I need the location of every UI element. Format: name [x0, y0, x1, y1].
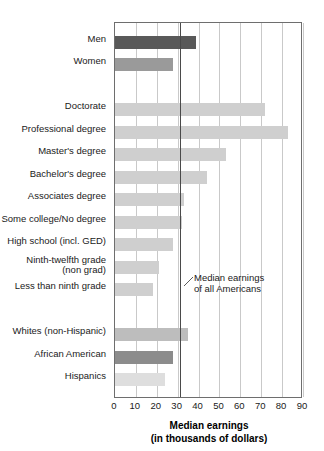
bar — [115, 238, 173, 251]
bar — [115, 373, 165, 386]
plot-area — [114, 22, 302, 398]
category-label: Hispanics — [0, 371, 106, 382]
bar-row — [115, 373, 165, 386]
category-label: Doctorate — [0, 101, 106, 112]
bar-row — [115, 216, 182, 229]
median-earnings-bar-chart: MenWomenDoctorateProfessional degreeMast… — [0, 0, 324, 451]
axis-title-line1: Median earnings — [114, 419, 304, 432]
x-tick-label-10: 10 — [130, 400, 141, 411]
axis-title: Median earnings (in thousands of dollars… — [114, 419, 304, 445]
category-labels: MenWomenDoctorateProfessional degreeMast… — [0, 22, 110, 398]
x-tick-label-90: 90 — [297, 400, 308, 411]
bar-row — [115, 58, 173, 71]
gridline-90 — [303, 23, 304, 397]
median-annotation-text: Median earnings of all Americans — [194, 272, 264, 294]
x-tick-label-20: 20 — [150, 400, 161, 411]
category-label: Master's degree — [0, 146, 106, 157]
bar-rows — [115, 23, 301, 397]
x-tick-label-50: 50 — [213, 400, 224, 411]
bar-row — [115, 148, 226, 161]
category-label: High school (incl. GED) — [0, 236, 106, 247]
bar-row — [115, 36, 196, 49]
bar — [115, 58, 173, 71]
x-tick-label-80: 80 — [276, 400, 287, 411]
x-tick-label-30: 30 — [171, 400, 182, 411]
category-label: Professional degree — [0, 124, 106, 135]
bar — [115, 283, 153, 296]
x-axis-ticks: 0102030405060708090 — [114, 400, 302, 414]
bar-row — [115, 238, 173, 251]
x-tick-label-40: 40 — [192, 400, 203, 411]
bar — [115, 261, 159, 274]
category-label: Associates degree — [0, 191, 106, 202]
x-tick-label-70: 70 — [255, 400, 266, 411]
category-label: Whites (non-Hispanic) — [0, 326, 106, 337]
annotation-leader-line — [184, 277, 194, 286]
category-label: Ninth-twelfth grade (non grad) — [0, 255, 106, 276]
bar — [115, 216, 182, 229]
category-label: Some college/No degree — [0, 214, 106, 225]
bar — [115, 148, 226, 161]
bar — [115, 126, 288, 139]
bar-row — [115, 261, 159, 274]
bar-row — [115, 328, 188, 341]
category-label: Bachelor's degree — [0, 169, 106, 180]
bar-row — [115, 103, 265, 116]
bar-row — [115, 171, 207, 184]
bar — [115, 193, 184, 206]
bar — [115, 328, 188, 341]
bar — [115, 171, 207, 184]
bar-row — [115, 193, 184, 206]
x-tick-label-0: 0 — [111, 400, 116, 411]
bar — [115, 36, 196, 49]
bar-row — [115, 126, 288, 139]
bar-row — [115, 283, 153, 296]
category-label: African American — [0, 349, 106, 360]
bar — [115, 351, 173, 364]
x-tick-label-60: 60 — [234, 400, 245, 411]
category-label: Women — [0, 56, 106, 67]
bar-row — [115, 351, 173, 364]
category-label: Men — [0, 34, 106, 45]
axis-title-line2: (in thousands of dollars) — [114, 432, 304, 445]
category-label: Less than ninth grade — [0, 281, 106, 292]
bar — [115, 103, 265, 116]
median-reference-line — [180, 23, 181, 397]
